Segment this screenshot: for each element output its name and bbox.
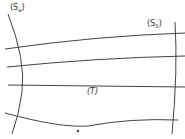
line-1 — [5, 33, 185, 49]
left-surface-label: (Sa) — [10, 3, 25, 13]
right-surface-label: (SS) — [147, 19, 162, 29]
trajectory-label: (T) — [87, 87, 98, 96]
marker-dot — [77, 130, 79, 132]
line-2 — [7, 56, 185, 67]
line-4 — [5, 113, 178, 126]
right-surface-curve — [172, 22, 176, 134]
diagram-canvas: (Sa) (SS) (T) — [0, 0, 185, 139]
